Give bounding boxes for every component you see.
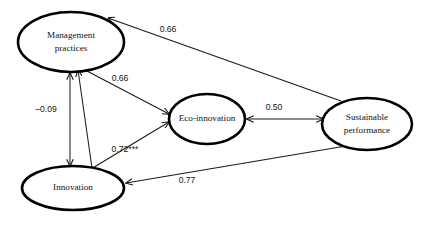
sustainable-performance-label-line2: performance: [344, 125, 390, 135]
edge-label-management-innovation-covariance: –0.09: [35, 104, 57, 114]
node-management-practices[interactable]: Management practices: [18, 12, 124, 72]
path-diagram-canvas: Management practices Eco-innovation Sust…: [0, 0, 422, 227]
sustainable-performance-ellipse[interactable]: [322, 98, 412, 150]
innovation-label: Innovation: [53, 182, 93, 192]
node-sustainable-performance[interactable]: Sustainable performance: [322, 98, 412, 150]
edge-label-eco-innovation-sustainable: 0.50: [266, 102, 283, 112]
edge-label-innovation-to-eco-innovation: 0.72***: [112, 144, 139, 154]
management-practices-ellipse[interactable]: [18, 12, 124, 72]
node-eco-innovation[interactable]: Eco-innovation: [169, 94, 245, 144]
edge-label-sustainable-to-management: 0.66: [160, 24, 177, 34]
edge-label-sustainable-to-innovation: 0.77: [179, 175, 196, 185]
edge-sustainable-to-management: [108, 18, 341, 101]
management-practices-label-line2: practices: [55, 43, 88, 53]
structural-model-svg: Management practices Eco-innovation Sust…: [0, 0, 422, 227]
management-practices-label-line1: Management: [47, 30, 95, 40]
edge-label-management-to-eco-innovation: 0.66: [112, 73, 129, 83]
eco-innovation-label: Eco-innovation: [179, 113, 236, 123]
node-innovation[interactable]: Innovation: [22, 166, 124, 210]
edge-innovation-to-management: [78, 70, 92, 168]
node-layer: Management practices Eco-innovation Sust…: [18, 12, 412, 210]
sustainable-performance-label-line1: Sustainable: [346, 112, 388, 122]
edge-sustainable-to-innovation: [126, 146, 346, 183]
